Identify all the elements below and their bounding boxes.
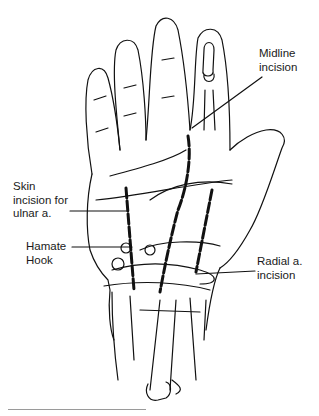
index-finger: [190, 29, 230, 150]
forearm: [112, 292, 206, 390]
label-midline-incision: Midlineincision: [259, 47, 297, 74]
radial-incision: [196, 190, 212, 272]
label-ulnar-incision: Skinincision forulnar a.: [13, 180, 68, 221]
thumb: [220, 130, 284, 268]
label-hamate-hook: HamateHook: [26, 240, 66, 267]
middle-finger: [146, 18, 190, 140]
ulnar-incision: [126, 188, 134, 290]
ring-finger: [114, 40, 146, 150]
label-radial-incision: Radial a.incision: [257, 255, 302, 282]
bottom-rule: [8, 409, 146, 410]
